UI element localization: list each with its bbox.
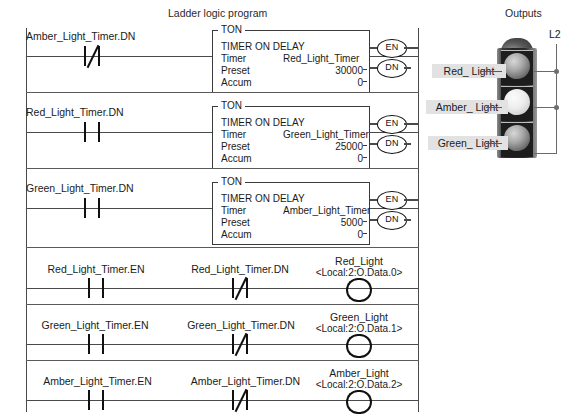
amber-light-lead bbox=[486, 107, 502, 108]
red-lamp-icon bbox=[504, 53, 530, 79]
rung-5-separator bbox=[26, 360, 419, 361]
ladder-program-heading: Ladder logic program bbox=[168, 7, 267, 19]
l2-rail-label: L2 bbox=[549, 28, 561, 40]
rung-2-dn-stub-right bbox=[404, 143, 411, 145]
red-light-lead bbox=[480, 71, 502, 72]
rung-1-dn-stub-right bbox=[404, 67, 411, 69]
rung-2-timer-value: Green_Light_Timer bbox=[283, 129, 369, 141]
rung-1-timer-block[interactable]: TON TIMER ON DELAY Timer Red_Light_Timer… bbox=[212, 30, 370, 93]
rung-2-preset-key: Preset bbox=[221, 141, 250, 153]
l2-dot-red bbox=[554, 69, 559, 74]
rung-4-contact-no[interactable] bbox=[85, 277, 107, 299]
rung-1-preset-key: Preset bbox=[221, 65, 250, 77]
l2-dot-amber bbox=[554, 105, 559, 110]
rung-2-accum-key: Accum bbox=[221, 153, 252, 165]
rung-3-dn-bubble: DN bbox=[377, 211, 407, 230]
rung-3-en-stub-right bbox=[404, 199, 419, 201]
rung-2-contact-no[interactable] bbox=[81, 121, 103, 143]
rung-3-preset-value: 5000 bbox=[341, 217, 363, 229]
left-power-rail bbox=[26, 28, 27, 412]
rung-4-contact1-label: Red_Light_Timer.EN bbox=[26, 263, 166, 275]
rung-1-accum-value: 0 bbox=[357, 77, 363, 89]
outputs-heading: Outputs bbox=[505, 7, 542, 19]
rung-1-timer-value: Red_Light_Timer bbox=[283, 53, 359, 65]
rung-1-ton-label: TON bbox=[218, 24, 245, 36]
rung-2-preset-value: 25000 bbox=[335, 141, 363, 153]
rung-5-coil-address: <Local:2:O.Data.1> bbox=[300, 323, 418, 334]
rung-3-en-bubble: EN bbox=[377, 191, 407, 210]
rung-3-accum-key: Accum bbox=[221, 229, 252, 241]
rung-2-separator bbox=[26, 168, 419, 169]
rung-3-contact-no[interactable] bbox=[81, 197, 103, 219]
rung-2-preset-row: Preset 25000 bbox=[221, 141, 363, 153]
rung-2-dn-bubble: DN bbox=[377, 135, 407, 154]
rung-3-dn-stub-right bbox=[404, 219, 411, 221]
rung-6-coil-label: Amber_Light bbox=[300, 367, 418, 379]
rung-3-preset-row: Preset 5000 bbox=[221, 217, 363, 229]
rung-1-timer-row: Timer Red_Light_Timer bbox=[221, 53, 363, 65]
rung-2-accum-row: Accum 0 bbox=[221, 153, 363, 165]
rung-5-coil[interactable] bbox=[346, 334, 372, 354]
rung-6-contact1-label: Amber_Light_Timer.EN bbox=[20, 375, 175, 387]
rung-1-contact-label: Amber_Light_Timer.DN bbox=[26, 30, 186, 42]
rung-5-contact-nc[interactable] bbox=[229, 333, 251, 355]
rung-6-coil-address: <Local:2:O.Data.2> bbox=[300, 379, 418, 390]
rung-4-coil-label: Red_Light bbox=[300, 255, 418, 267]
rung-1-dn-bubble: DN bbox=[377, 59, 407, 78]
rung-2-en-stub-right bbox=[404, 123, 419, 125]
rung-2-en-bubble: EN bbox=[377, 115, 407, 134]
rung-4-contact-nc[interactable] bbox=[229, 277, 251, 299]
rung-3-timer-key: Timer bbox=[221, 205, 246, 217]
rung-1-contact-nc[interactable] bbox=[81, 45, 103, 67]
rung-5-contact2-label: Green_Light_Timer.DN bbox=[166, 319, 316, 331]
rung-6-coil[interactable] bbox=[346, 390, 372, 410]
l2-lead-green bbox=[534, 153, 557, 154]
green-light-lead bbox=[486, 143, 502, 144]
rung-3-timer-row: Timer Amber_Light_Timer bbox=[221, 205, 363, 217]
rung-3-separator bbox=[26, 247, 419, 248]
rung-6-contact-nc[interactable] bbox=[229, 389, 251, 411]
rung-5-coil-label: Green_Light bbox=[300, 311, 418, 323]
rung-1-accum-row: Accum 0 bbox=[221, 77, 363, 89]
rung-3-ton-label: TON bbox=[218, 176, 245, 188]
rung-4-coil-address: <Local:2:O.Data.0> bbox=[300, 267, 418, 278]
rung-2-timer-block[interactable]: TON TIMER ON DELAY Timer Green_Light_Tim… bbox=[212, 106, 370, 169]
rung-1-accum-key: Accum bbox=[221, 77, 252, 89]
rung-1-timer-key: Timer bbox=[221, 53, 246, 65]
ladder-logic-figure: Ladder logic program Outputs Amber_Light… bbox=[0, 0, 581, 420]
rung-3-timer-value: Amber_Light_Timer bbox=[283, 205, 370, 217]
right-power-rail bbox=[418, 28, 419, 412]
rung-3-timer-title: TIMER ON DELAY bbox=[221, 193, 305, 204]
rung-1-en-bubble: EN bbox=[377, 39, 407, 58]
rung-2-contact-label: Red_Light_Timer.DN bbox=[26, 106, 186, 118]
rung-3-preset-key: Preset bbox=[221, 217, 250, 229]
rung-4-coil[interactable] bbox=[346, 278, 372, 298]
rung-5-contact1-label: Green_Light_Timer.EN bbox=[20, 319, 170, 331]
rung-3-accum-row: Accum 0 bbox=[221, 229, 363, 241]
rung-5-contact-no[interactable] bbox=[85, 333, 107, 355]
rung-2-ton-label: TON bbox=[218, 100, 245, 112]
rung-2-timer-row: Timer Green_Light_Timer bbox=[221, 129, 363, 141]
rung-1-preset-row: Preset 30000 bbox=[221, 65, 363, 77]
rung-1-separator bbox=[26, 92, 419, 93]
rung-3-timer-block[interactable]: TON TIMER ON DELAY Timer Amber_Light_Tim… bbox=[212, 182, 370, 245]
rung-2-timer-key: Timer bbox=[221, 129, 246, 141]
rung-1-en-stub-right bbox=[404, 47, 419, 49]
l2-rail bbox=[556, 44, 557, 154]
rung-1-preset-value: 30000 bbox=[335, 65, 363, 77]
rung-2-accum-value: 0 bbox=[357, 153, 363, 165]
rung-6-contact-no[interactable] bbox=[85, 389, 107, 411]
rung-3-accum-value: 0 bbox=[357, 229, 363, 241]
rung-3-contact-label: Green_Light_Timer.DN bbox=[26, 182, 196, 194]
rung-2-timer-title: TIMER ON DELAY bbox=[221, 117, 305, 128]
rung-4-contact2-label: Red_Light_Timer.DN bbox=[170, 263, 310, 275]
rung-1-timer-title: TIMER ON DELAY bbox=[221, 41, 305, 52]
rung-4-separator bbox=[26, 304, 419, 305]
